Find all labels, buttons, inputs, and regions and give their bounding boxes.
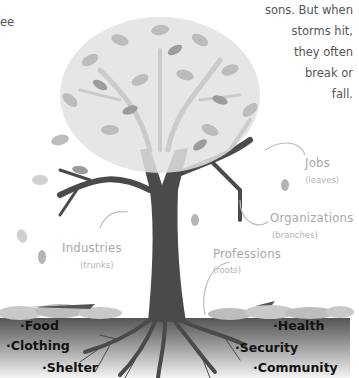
label-organizations-sub: (branches)	[272, 230, 318, 240]
need-food: ·Food	[20, 318, 59, 333]
intro-text-right: sons. But when storms hit, they often br…	[243, 0, 353, 105]
label-industries-sub: (trunks)	[80, 260, 114, 270]
intro-line: they often	[243, 42, 353, 63]
intro-line: fall.	[243, 84, 353, 105]
intro-line: storms hit,	[243, 21, 353, 42]
label-organizations: Organizations	[270, 210, 353, 225]
label-professions: Professions	[213, 246, 281, 261]
intro-text-left-fragment: ee	[0, 12, 14, 33]
need-community: ·Community	[253, 360, 338, 375]
need-shelter: ·Shelter	[42, 360, 98, 375]
need-security: ·Security	[235, 340, 298, 355]
label-jobs: Jobs	[305, 155, 330, 170]
need-clothing: ·Clothing	[6, 338, 70, 353]
intro-line: sons. But when	[243, 0, 353, 21]
label-jobs-sub: (leaves)	[305, 175, 339, 185]
tree-infographic: ee sons. But when storms hit, they often…	[0, 0, 359, 378]
label-professions-sub: (roots)	[213, 265, 241, 275]
intro-line: break or	[243, 63, 353, 84]
need-health: ·Health	[273, 318, 324, 333]
label-industries: Industries	[62, 240, 122, 255]
